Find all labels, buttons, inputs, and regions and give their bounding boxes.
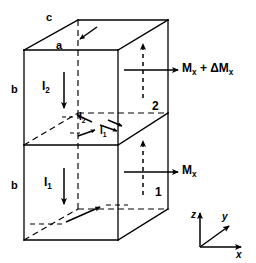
moment-upper-delta-subscript: x [229,68,234,77]
axis-label-x: x [236,250,242,260]
moment-label-lower: Mx [182,164,197,180]
moment-arrows [124,70,178,172]
current-label-i1-interface: I1 [100,126,107,139]
current-label-i2-upper: I2 [42,80,50,96]
bottom-right-edge [118,209,168,240]
current-i2-upper-subscript: 2 [45,86,50,95]
axis-label-z: z [191,210,196,220]
box-diagram-svg [0,0,256,263]
current-i1-interface-subscript: 1 [103,131,107,138]
moment-lower-subscript: x [192,170,197,179]
moment-label-upper: Mx + ΔMx [182,62,233,78]
interface-right-edge [118,113,168,145]
moment-lower-symbol: M [182,163,192,177]
top-face-left-edge [24,20,78,50]
bottom-face-dashed-leads [30,205,128,224]
current-i2-interface-subscript: 2 [82,117,86,124]
interface-i1-arrow-b [78,130,95,136]
corner-label-interface: 2 [152,100,159,112]
axis-label-y: y [222,212,228,222]
dimension-label-a: a [56,40,62,51]
interface-i2-arrow-b [108,120,122,126]
figure-container: c a b b I2 I1 I2 I1 Mx + ΔMx Mx 2 1 z y … [0,0,256,263]
dimension-label-b-lower: b [11,180,18,191]
box-hidden-edges [24,20,168,240]
current-label-i1-lower: I1 [44,176,52,192]
top-face-right-edge [118,20,168,50]
corner-label-bottom: 1 [155,186,162,198]
dimension-label-c: c [46,12,52,23]
moment-upper-operator: + ΔM [197,61,229,75]
interface-left-edge [24,113,78,145]
coordinate-axes [200,213,241,247]
top-face-diagonal-arrow [80,27,97,39]
interface-dash-stubs [62,117,80,133]
box-solid-edges [24,20,168,240]
dimension-label-b-upper: b [11,84,18,95]
moment-upper-symbol: M [182,61,192,75]
axis-y-arrow [200,226,229,247]
current-i1-lower-subscript: 1 [47,182,52,191]
current-label-i2-interface: I2 [79,112,86,125]
